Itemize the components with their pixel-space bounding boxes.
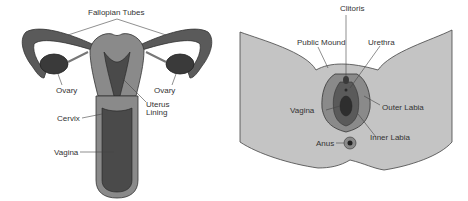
label-inner-labia: Inner Labia	[370, 133, 411, 142]
label-uterus-lining-line2: Lining	[146, 108, 167, 117]
ovary-right	[166, 54, 194, 74]
label-urethra: Urethra	[368, 38, 395, 47]
vagina-inner	[102, 108, 132, 192]
label-anus: Anus	[316, 139, 334, 148]
external-anatomy-diagram: Clitoris Public Mound Urethra Vagina Out…	[240, 4, 452, 170]
ovary-left	[40, 54, 68, 74]
vaginal-opening	[340, 96, 352, 116]
label-vagina-external: Vagina	[290, 106, 315, 115]
label-vagina: Vagina	[54, 148, 79, 157]
label-cervix: Cervix	[57, 114, 80, 123]
urethra	[345, 89, 348, 92]
label-pubic-mound: Public Mound	[297, 38, 345, 47]
anatomy-figure: Fallopian Tubes Ovary Ovary Uterus Linin…	[0, 0, 468, 201]
label-outer-labia: Outer Labia	[382, 103, 424, 112]
label-fallopian-tubes: Fallopian Tubes	[88, 8, 144, 17]
label-ovary-left: Ovary	[56, 86, 77, 95]
label-clitoris: Clitoris	[340, 4, 364, 13]
internal-anatomy-diagram: Fallopian Tubes Ovary Ovary Uterus Linin…	[22, 8, 212, 198]
label-ovary-right: Ovary	[154, 86, 175, 95]
